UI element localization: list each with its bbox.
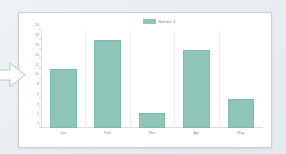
x-axis-tick-label: Mar bbox=[149, 132, 156, 136]
x-axis-tick-label: May bbox=[237, 132, 244, 136]
bar[interactable] bbox=[183, 50, 210, 128]
bar[interactable] bbox=[139, 113, 166, 128]
bar[interactable] bbox=[94, 40, 121, 128]
chart-card: Series 1 02468101214161820 JanFebMarAprM… bbox=[18, 12, 272, 148]
x-axis-tick-label: Apr bbox=[193, 132, 199, 136]
right-arrow-callout-icon bbox=[0, 60, 30, 90]
plot-area: 02468101214161820 JanFebMarAprMay bbox=[41, 30, 263, 128]
bar-slot: Mar bbox=[130, 30, 174, 128]
bar-slot: Jan bbox=[41, 30, 85, 128]
x-axis-tick-label: Jan bbox=[60, 132, 66, 136]
legend-swatch-series-1 bbox=[143, 19, 156, 24]
x-axis-tick-label: Feb bbox=[104, 132, 111, 136]
bar[interactable] bbox=[50, 69, 77, 128]
bar-slot: Apr bbox=[174, 30, 218, 128]
chart-legend: Series 1 bbox=[19, 19, 271, 24]
legend-label-series-1: Series 1 bbox=[159, 19, 176, 24]
bar-slot: Feb bbox=[85, 30, 129, 128]
bar-slot: May bbox=[219, 30, 263, 128]
chart-container: Series 1 02468101214161820 JanFebMarAprM… bbox=[19, 13, 271, 147]
bar-group: JanFebMarAprMay bbox=[41, 30, 263, 128]
bar[interactable] bbox=[228, 99, 255, 128]
